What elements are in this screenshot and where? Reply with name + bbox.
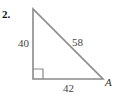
vertex-a-label: A — [104, 76, 112, 88]
vertical-leg-label: 40 — [18, 37, 30, 49]
problem-number: 2. — [2, 8, 11, 20]
triangle-diagram: 2. 40 58 42 A — [0, 0, 116, 97]
horizontal-leg-label: 42 — [63, 82, 74, 94]
right-angle-marker — [33, 69, 43, 79]
hypotenuse-label: 58 — [72, 36, 84, 48]
